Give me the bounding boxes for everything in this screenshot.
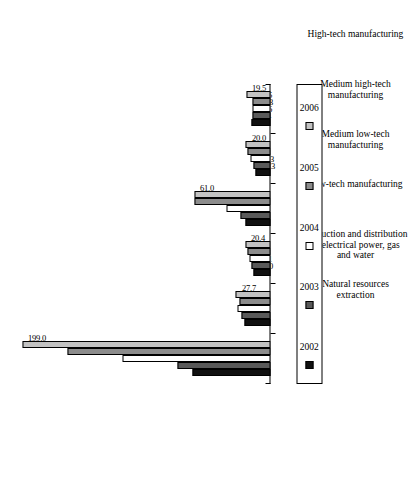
bar-group: 62.474.8118.6162.5199.0 [22, 342, 270, 377]
bar-value-label: 20.0 [251, 134, 265, 143]
legend-swatch [305, 122, 313, 130]
legend-item: 2006 [304, 99, 314, 130]
bar-column: 16.3 [250, 156, 270, 163]
bar-column: 14.3 [252, 106, 270, 113]
bar-column: 13.3 [253, 163, 270, 170]
bar-column: 61.0 [194, 192, 270, 199]
bar-group: 21.122.926.324.627.7 [235, 292, 270, 327]
legend-label: 2005 [300, 164, 319, 174]
bar-column: 21.1 [244, 320, 270, 327]
bar-group: 15.414.614.314.519.5 [246, 92, 270, 127]
bar-column: 118.6 [122, 356, 270, 363]
category-axis-line [269, 84, 270, 384]
bar-group: 12.313.316.318.120.0 [245, 142, 270, 177]
bar-column: 24.6 [239, 299, 270, 306]
legend-swatch [305, 301, 313, 309]
legend-swatch [305, 361, 313, 369]
bar-column: 199.0 [22, 342, 270, 349]
legend-item: 2002 [304, 338, 314, 369]
bar-column: 14.0 [253, 270, 270, 277]
legend-item: 2004 [304, 219, 314, 250]
axis-tick [270, 183, 275, 184]
bar [67, 349, 270, 356]
bar-value-label: 199.0 [28, 334, 46, 343]
axis-tick [270, 133, 275, 134]
axis-tick [270, 283, 275, 284]
bar-value-label: 61.0 [200, 184, 214, 193]
bar-column: 35.1 [226, 206, 270, 213]
bar-group: 14.015.116.818.720.4 [245, 242, 270, 277]
axis-tick [270, 233, 275, 234]
bar-value-label: 20.4 [251, 234, 265, 243]
bar-column: 14.6 [252, 113, 270, 120]
bar-column: 20.0 [245, 220, 270, 227]
bar-group: 20.024.435.160.761.0 [194, 192, 270, 227]
bar-column: 19.5 [246, 92, 270, 99]
category-label: High-tech manufacturing [280, 29, 412, 40]
bar-column: 15.4 [251, 120, 270, 127]
legend-swatch [305, 242, 313, 250]
legend-item: 2003 [304, 278, 314, 309]
bar-value-label: 19.5 [252, 84, 266, 93]
category-label-line: High-tech manufacturing [280, 29, 412, 40]
bar-column: 24.4 [240, 213, 270, 220]
bar-column: 26.3 [237, 306, 270, 313]
bar-column: 74.8 [177, 363, 270, 370]
bar-column: 20.4 [245, 242, 270, 249]
bar-column: 18.7 [247, 249, 270, 256]
legend-label: 2006 [300, 104, 319, 114]
bar-column: 162.5 [67, 349, 270, 356]
bar-column: 15.1 [251, 263, 270, 270]
legend-label: 2003 [300, 283, 319, 293]
bar-column: 12.3 [255, 170, 270, 177]
bar-column: 60.7 [194, 199, 270, 206]
bar-column: 62.4 [192, 370, 270, 377]
legend-swatch [305, 182, 313, 190]
bar-column: 22.9 [241, 313, 270, 320]
axis-tick [270, 333, 275, 334]
bar-column: 16.8 [249, 256, 270, 263]
plot-area: 62.474.8118.6162.5199.0Natural resources… [8, 84, 270, 384]
bar-column: 20.0 [245, 142, 270, 149]
chart-legend: 20022003200420052006 [296, 84, 322, 384]
legend-item: 2005 [304, 159, 314, 190]
legend-label: 2004 [300, 223, 319, 233]
axis-start-cap [265, 383, 270, 384]
bar-value-label: 27.7 [241, 284, 255, 293]
bar-column: 18.1 [247, 149, 270, 156]
bar [22, 342, 270, 349]
bar-column: 27.7 [235, 292, 270, 299]
legend-label: 2002 [300, 342, 319, 352]
bar-column: 14.5 [252, 99, 270, 106]
